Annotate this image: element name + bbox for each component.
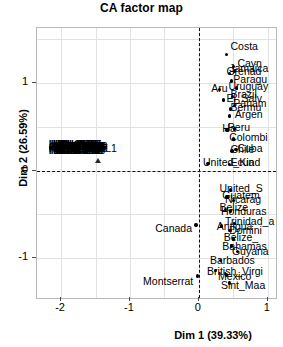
y-axis-tick	[32, 170, 36, 171]
y-axis-tick	[32, 257, 36, 258]
plot-area: HaitiCubaChileBelizeHaitiCubaChileBelize…	[36, 27, 277, 299]
x-tick-label: -2	[45, 301, 75, 313]
y-axis-tick	[32, 82, 36, 83]
point-label: Montserrat	[143, 276, 193, 287]
point-label: Chile	[231, 144, 255, 155]
y-tick-label: 0	[2, 163, 28, 175]
y-axis-label: Dim 2 (26.59%)	[17, 78, 29, 218]
point-label: L1	[105, 143, 117, 154]
point-label: Sint_Maa	[221, 280, 265, 291]
data-point	[222, 98, 225, 101]
chart-title: CA factor map	[0, 1, 283, 15]
point-label: Costa	[231, 41, 258, 52]
ca-factor-map-figure: CA factor map Dim 2 (26.59%) Dim 1 (39.3…	[0, 0, 283, 347]
point-label: Ecuad	[231, 157, 261, 168]
x-tick-label: 1	[252, 301, 282, 313]
point-label: Aru	[211, 83, 227, 94]
data-point	[68, 146, 71, 149]
point-label: Canada	[155, 223, 192, 234]
reference-line-x0	[199, 28, 200, 298]
data-point	[228, 114, 231, 117]
x-axis-label: Dim 1 (39.33%)	[143, 329, 283, 341]
data-point	[194, 223, 197, 226]
y-tick-label: -1	[2, 250, 28, 262]
data-point	[77, 149, 80, 152]
data-point	[95, 158, 101, 163]
reference-line-y0	[37, 171, 276, 172]
x-tick-label: -1	[114, 301, 144, 313]
y-tick-label: 1	[2, 75, 28, 87]
point-label: Argen	[235, 109, 263, 120]
data-point	[225, 53, 228, 56]
data-point	[196, 274, 199, 277]
x-tick-label: 0	[183, 301, 213, 313]
